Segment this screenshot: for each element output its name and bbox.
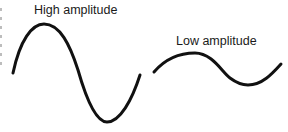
waves-diagram	[0, 0, 288, 132]
low-amplitude-wave	[154, 53, 281, 85]
high-amplitude-wave	[13, 24, 140, 122]
